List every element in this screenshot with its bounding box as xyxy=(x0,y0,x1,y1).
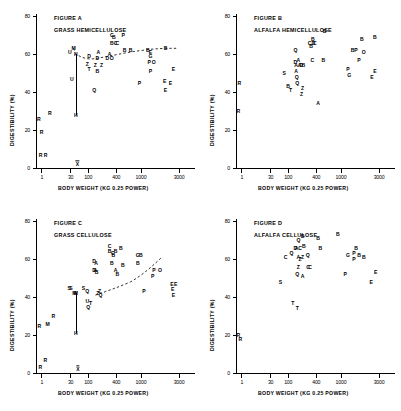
data-point: R xyxy=(37,323,41,328)
data-point: T xyxy=(291,300,294,305)
x-tick-label: 100 xyxy=(276,379,300,385)
y-tick-label: 0 xyxy=(216,165,230,171)
y-tick xyxy=(33,16,37,17)
x-tick xyxy=(316,374,317,378)
y-tick-label: 0 xyxy=(216,370,230,376)
data-point: B xyxy=(139,253,143,258)
x-tick xyxy=(288,169,289,173)
figure-subtitle: GRASS CELLULOSE xyxy=(54,232,112,238)
x-tick-label: 1 xyxy=(230,174,254,180)
data-point: R xyxy=(40,129,44,134)
x-axis-title: BODY WEIGHT (KG 0.25 POWER) xyxy=(258,390,348,396)
data-point: E xyxy=(174,281,177,286)
x-tick xyxy=(341,374,342,378)
x-tick xyxy=(88,374,89,378)
data-point: H xyxy=(74,52,78,57)
data-point: Z xyxy=(300,91,303,96)
x-tick xyxy=(141,374,142,378)
y-tick-label: 40 xyxy=(16,294,30,300)
y-tick-label: 80 xyxy=(16,13,30,19)
data-point: C xyxy=(308,264,312,269)
x-tick xyxy=(270,374,271,378)
data-point: E xyxy=(370,74,373,79)
x-tick xyxy=(70,169,71,173)
y-axis-title: DIGESTIBILITY (%) xyxy=(9,94,15,146)
x-tick xyxy=(70,374,71,378)
x-tick xyxy=(316,169,317,173)
y-tick-label: 20 xyxy=(216,127,230,133)
data-point: E xyxy=(374,270,377,275)
x-tick xyxy=(379,374,380,378)
data-point: B xyxy=(321,57,325,62)
data-point: R xyxy=(37,116,41,121)
y-tick-label: 20 xyxy=(16,332,30,338)
data-point: P xyxy=(142,289,145,294)
x-tick-label: 3000 xyxy=(367,174,391,180)
y-tick-label: 40 xyxy=(216,294,230,300)
data-point: Q xyxy=(295,80,299,85)
x-tick xyxy=(88,169,89,173)
data-point: R xyxy=(51,314,55,319)
figure-subtitle: ALFALFA CELLULOSE xyxy=(254,232,317,238)
data-point: B xyxy=(357,253,361,258)
data-point: B xyxy=(301,234,305,239)
data-point: Q xyxy=(295,272,299,277)
x-tick xyxy=(379,169,380,173)
y-tick xyxy=(33,335,37,336)
data-point: P xyxy=(354,48,357,53)
y-tick-label: 80 xyxy=(216,218,230,224)
data-point: B xyxy=(110,260,114,265)
x-tick xyxy=(241,169,242,173)
x-bar-marker: X xyxy=(76,160,79,167)
data-point: B xyxy=(302,243,306,248)
data-point: B xyxy=(114,249,118,254)
y-tick-label: 0 xyxy=(16,370,30,376)
data-point: R xyxy=(48,110,52,115)
x-tick xyxy=(141,169,142,173)
data-point: B xyxy=(323,29,327,34)
panel-figure-a: 02040608013010040010003000BODY WEIGHT (K… xyxy=(0,0,200,205)
y-tick xyxy=(33,130,37,131)
x-axis-title: BODY WEIGHT (KG 0.25 POWER) xyxy=(58,185,148,191)
x-tick-label: 1000 xyxy=(329,379,353,385)
x-tick xyxy=(41,169,42,173)
x-tick-label: 1 xyxy=(30,379,54,385)
data-point: E xyxy=(163,78,166,83)
x-tick-label: 100 xyxy=(276,174,300,180)
data-point: Q xyxy=(85,289,89,294)
data-point: B xyxy=(362,255,366,260)
data-point: R xyxy=(44,152,48,157)
y-tick-label: 60 xyxy=(16,51,30,57)
data-point: Z xyxy=(100,63,103,68)
data-point: P xyxy=(151,274,154,279)
data-point: H xyxy=(74,112,78,117)
data-point: G xyxy=(347,72,351,77)
data-point: C xyxy=(116,40,120,45)
y-axis-title: DIGESTIBILITY (%) xyxy=(209,94,215,146)
x-tick-label: 3000 xyxy=(367,379,391,385)
data-point: O xyxy=(362,50,366,55)
data-point: E xyxy=(172,293,175,298)
data-point: P xyxy=(147,59,150,64)
data-point: P xyxy=(352,257,355,262)
x-tick-label: 400 xyxy=(304,379,328,385)
data-point: Q xyxy=(92,88,96,93)
x-tick-label: 100 xyxy=(76,379,100,385)
y-axis-title: DIGESTIBILITY (%) xyxy=(9,299,15,351)
data-point: B xyxy=(95,270,99,275)
y-tick-label: 60 xyxy=(216,51,230,57)
panel-figure-c: 02040608013010040010003000BODY WEIGHT (K… xyxy=(0,205,200,410)
x-tick-label: 3000 xyxy=(167,379,191,385)
y-tick xyxy=(233,130,237,131)
data-point: B xyxy=(121,262,125,267)
data-point: E xyxy=(172,67,175,72)
y-tick-label: 20 xyxy=(216,332,230,338)
y-tick xyxy=(33,168,37,169)
data-point: S xyxy=(279,279,282,284)
data-point: D xyxy=(95,55,99,60)
data-point: B xyxy=(95,69,99,74)
data-point: E xyxy=(373,69,376,74)
data-point: R xyxy=(238,80,242,85)
data-point: M xyxy=(46,321,50,326)
x-axis-title: BODY WEIGHT (KG 0.25 POWER) xyxy=(58,390,148,396)
